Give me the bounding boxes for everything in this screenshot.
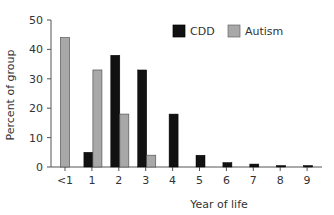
legend-label-autism: Autism bbox=[245, 25, 283, 38]
x-tick-label: 4 bbox=[169, 174, 176, 187]
y-tick-label: 10 bbox=[29, 132, 43, 145]
y-tick-label: 40 bbox=[29, 43, 43, 56]
bar-cdd bbox=[111, 55, 120, 167]
bar-cdd bbox=[277, 166, 286, 167]
y-axis: 01020304050 bbox=[29, 14, 51, 174]
y-axis-label: Percent of group bbox=[4, 50, 17, 141]
y-tick-label: 0 bbox=[36, 161, 43, 174]
bar-cdd bbox=[223, 163, 232, 167]
x-tick-label: <1 bbox=[57, 174, 73, 187]
x-tick-label: 7 bbox=[250, 174, 257, 187]
x-tick-label: 8 bbox=[277, 174, 284, 187]
legend-swatch-cdd bbox=[173, 25, 185, 37]
bar-cdd bbox=[84, 152, 93, 167]
bar-autism bbox=[93, 70, 102, 167]
bar-cdd bbox=[304, 166, 313, 167]
x-tick-label: 1 bbox=[88, 174, 95, 187]
chart-canvas: 01020304050 <1123456789 CDDAutism Percen… bbox=[0, 0, 334, 215]
bar-autism bbox=[61, 38, 70, 167]
y-tick-label: 20 bbox=[29, 102, 43, 115]
legend: CDDAutism bbox=[173, 25, 283, 38]
y-tick-label: 30 bbox=[29, 73, 43, 86]
bar-cdd bbox=[196, 155, 205, 167]
bar-cdd bbox=[169, 114, 178, 167]
x-axis: <1123456789 bbox=[51, 167, 322, 187]
bar-autism bbox=[120, 114, 129, 167]
bar-cdd bbox=[250, 164, 259, 167]
x-tick-label: 6 bbox=[223, 174, 230, 187]
bars bbox=[61, 38, 313, 167]
legend-swatch-autism bbox=[228, 25, 240, 37]
legend-label-cdd: CDD bbox=[190, 25, 215, 38]
x-tick-label: 9 bbox=[304, 174, 311, 187]
x-tick-label: 3 bbox=[142, 174, 149, 187]
x-tick-label: 2 bbox=[115, 174, 122, 187]
x-tick-label: 5 bbox=[196, 174, 203, 187]
bar-chart: 01020304050 <1123456789 CDDAutism Percen… bbox=[0, 0, 334, 215]
bar-autism bbox=[147, 155, 156, 167]
bar-cdd bbox=[138, 70, 147, 167]
x-axis-label: Year of life bbox=[189, 198, 248, 211]
y-tick-label: 50 bbox=[29, 14, 43, 27]
